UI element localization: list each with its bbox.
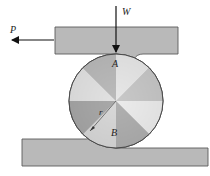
label-r: r (99, 107, 103, 117)
label-a: A (111, 58, 119, 69)
label-b: B (111, 127, 117, 138)
cylinder-between-plates-diagram: W P A B r (0, 0, 210, 176)
label-p: P (9, 24, 16, 35)
label-w: W (122, 6, 132, 17)
